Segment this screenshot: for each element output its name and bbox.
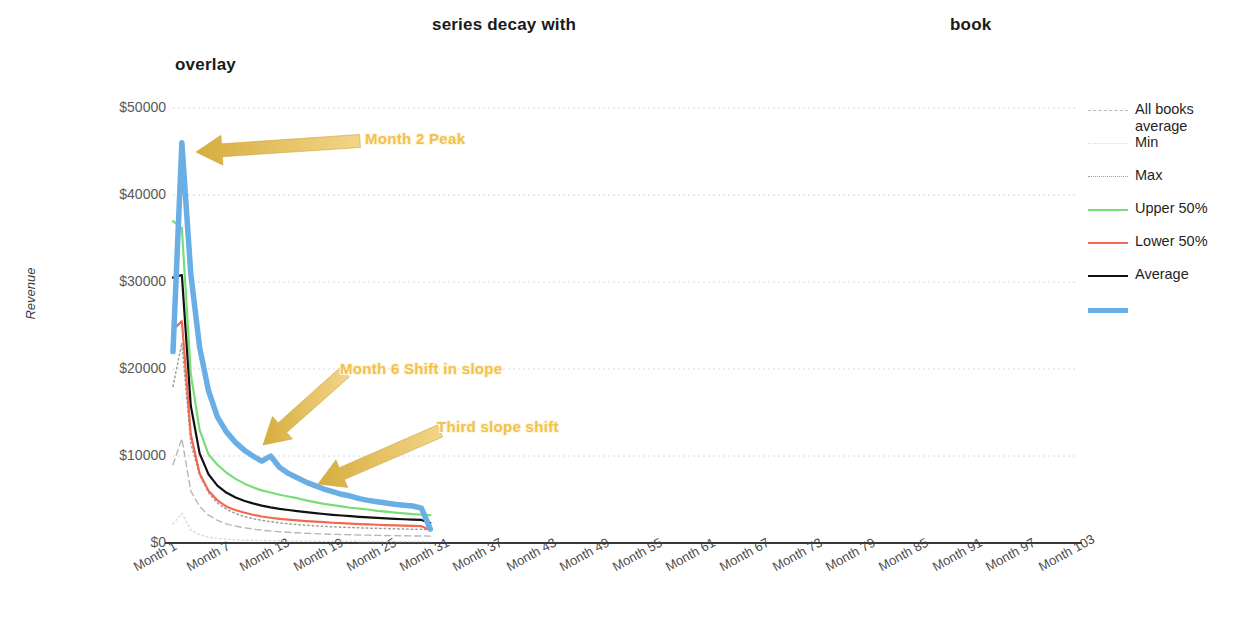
annotation-label-1: Month 6 Shift in slope <box>340 360 502 377</box>
legend-item-label: Average <box>1135 266 1189 283</box>
legend-item[interactable]: Upper 50% <box>1088 200 1236 230</box>
annotation-label-0: Month 2 Peak <box>365 130 465 147</box>
legend-item[interactable]: Lower 50% <box>1088 233 1236 263</box>
legend-item-label: All books average <box>1135 101 1236 135</box>
legend-swatch-icon <box>1088 235 1128 251</box>
legend-swatch-icon <box>1088 103 1128 119</box>
legend-item-label: Max <box>1135 167 1162 184</box>
annotation-label-2: Third slope shift <box>437 418 559 435</box>
annotation-arrow <box>263 367 349 445</box>
legend-item[interactable]: Average <box>1088 266 1236 296</box>
legend-item-label: Min <box>1135 134 1158 151</box>
chart-container: series decay with book overlay Revenue $… <box>0 0 1236 617</box>
legend-item-label: Lower 50% <box>1135 233 1208 250</box>
annotation-arrow <box>196 135 360 166</box>
legend-swatch-icon <box>1088 202 1128 218</box>
plot-area <box>0 0 1236 617</box>
legend-swatch-icon <box>1088 169 1128 185</box>
legend-swatch-icon <box>1088 268 1128 284</box>
legend-swatch-icon <box>1088 301 1128 317</box>
chart-legend: All books averageMinMaxUpper 50%Lower 50… <box>1088 101 1236 332</box>
legend-swatch-icon <box>1088 136 1128 152</box>
legend-item-label: Upper 50% <box>1135 200 1208 217</box>
legend-item[interactable]: Min <box>1088 134 1236 164</box>
legend-item[interactable]: Max <box>1088 167 1236 197</box>
legend-item[interactable]: All books average <box>1088 101 1236 131</box>
series-line <box>173 143 430 529</box>
legend-item[interactable] <box>1088 299 1236 329</box>
